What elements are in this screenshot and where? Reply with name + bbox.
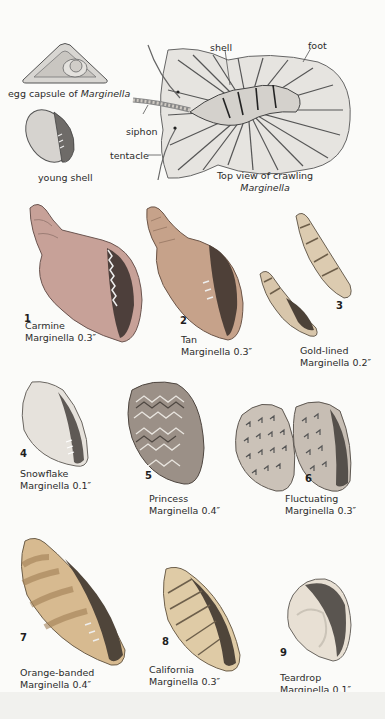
young-shell-label: young shell <box>38 172 93 183</box>
species-number-5: 5 <box>145 470 152 481</box>
species-name: Tan <box>181 334 252 346</box>
species-name: Carmine <box>25 320 96 332</box>
shell-illustration-tan <box>143 203 248 343</box>
shell-illustration-princess <box>122 378 207 488</box>
shell-illustration-gold-lined <box>258 210 358 340</box>
egg-capsule-label-prefix: egg capsule of <box>8 88 81 99</box>
species-size: Marginella 0.4″ <box>149 505 220 517</box>
species-number-8: 8 <box>162 636 169 647</box>
egg-capsule-label: egg capsule of Marginella <box>8 88 130 99</box>
shell-illustration-snowflake <box>18 380 93 470</box>
species-size: Marginella 0.3″ <box>149 676 220 688</box>
species-size: Marginella 0.1″ <box>20 480 91 492</box>
callout-siphon: siphon <box>126 126 157 137</box>
species-caption-1: Carmine Marginella 0.3″ <box>25 320 96 343</box>
species-name: Gold-lined <box>300 345 371 357</box>
species-name: Princess <box>149 493 220 505</box>
species-caption-2: Tan Marginella 0.3″ <box>181 334 252 357</box>
species-number-9: 9 <box>280 647 287 658</box>
top-view-caption: Top view of crawling Marginella <box>200 170 330 193</box>
crawling-marginella-illustration <box>128 40 358 185</box>
species-number-6: 6 <box>305 473 312 484</box>
species-name: California <box>149 664 220 676</box>
species-number-2: 2 <box>180 315 187 326</box>
egg-capsule-illustration <box>20 40 110 85</box>
species-caption-3: Gold-lined Marginella 0.2″ <box>300 345 371 368</box>
species-size: Marginella 0.3″ <box>285 505 356 517</box>
species-name: Snowflake <box>20 468 91 480</box>
species-size: Marginella 0.3″ <box>25 332 96 344</box>
top-view-caption-line1: Top view of crawling <box>200 170 330 182</box>
young-shell-illustration <box>18 106 82 166</box>
species-size: Marginella 0.3″ <box>181 346 252 358</box>
egg-capsule-label-genus: Marginella <box>81 88 131 99</box>
species-name: Fluctuating <box>285 493 356 505</box>
species-caption-7: Orange-banded Marginella 0.4″ <box>20 667 94 690</box>
species-name: Teardrop <box>280 672 351 684</box>
shell-illustration-california <box>158 565 243 675</box>
species-caption-4: Snowflake Marginella 0.1″ <box>20 468 91 491</box>
callout-foot: foot <box>308 40 327 51</box>
species-size: Marginella 0.4″ <box>20 679 94 691</box>
species-name: Orange-banded <box>20 667 94 679</box>
species-number-7: 7 <box>20 632 27 643</box>
page-bottom-edge <box>0 692 385 719</box>
shell-illustration-fluctuating <box>232 395 357 495</box>
species-size: Marginella 0.2″ <box>300 357 371 369</box>
shell-illustration-teardrop <box>283 575 353 665</box>
species-caption-6: Fluctuating Marginella 0.3″ <box>285 493 356 516</box>
top-view-caption-line2: Marginella <box>200 182 330 194</box>
species-caption-5: Princess Marginella 0.4″ <box>149 493 220 516</box>
callout-tentacle: tentacle <box>110 150 149 161</box>
shell-illustration-orange-banded <box>15 535 130 670</box>
species-caption-8: California Marginella 0.3″ <box>149 664 220 687</box>
callout-shell: shell <box>210 42 232 53</box>
species-number-3: 3 <box>336 300 343 311</box>
species-number-4: 4 <box>20 448 27 459</box>
